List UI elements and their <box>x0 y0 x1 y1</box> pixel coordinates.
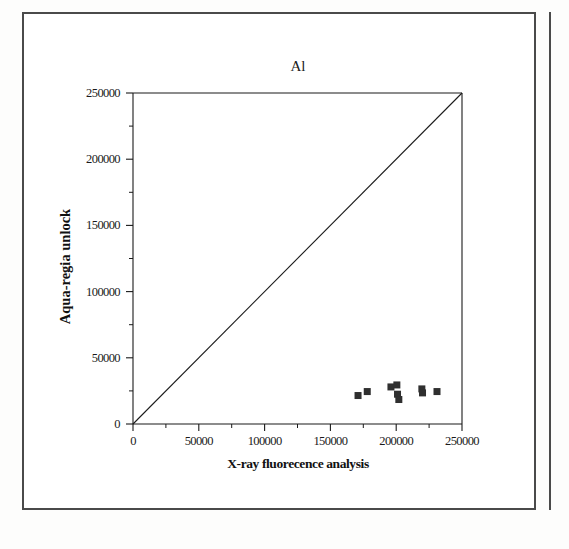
x-tick-label: 250000 <box>445 434 479 449</box>
x-tick-label: 150000 <box>313 434 347 449</box>
one-to-one-reference-line <box>133 93 462 424</box>
x-minor-ticks <box>166 424 429 428</box>
data-point-marker <box>393 381 400 388</box>
data-point-marker <box>434 388 441 395</box>
y-tick-label: 250000 <box>62 86 120 101</box>
x-tick-label: 0 <box>130 434 136 449</box>
y-axis-title: Aqua-regia unlock <box>57 157 74 377</box>
x-tick-label: 50000 <box>185 434 213 449</box>
scanned-page: Al <box>0 0 569 549</box>
data-point-marker <box>364 388 371 395</box>
x-axis-title: X-ray fluorecence analysis <box>133 456 463 472</box>
x-tick-label: 100000 <box>248 434 282 449</box>
data-marker-group <box>355 381 441 403</box>
data-point-marker <box>395 396 402 403</box>
y-minor-ticks <box>129 126 133 391</box>
y-tick-label: 0 <box>62 417 120 432</box>
x-tick-label: 200000 <box>379 434 413 449</box>
data-point-marker <box>355 392 362 399</box>
data-point-marker <box>419 389 426 396</box>
scatter-plot-figure: Al <box>0 0 569 549</box>
